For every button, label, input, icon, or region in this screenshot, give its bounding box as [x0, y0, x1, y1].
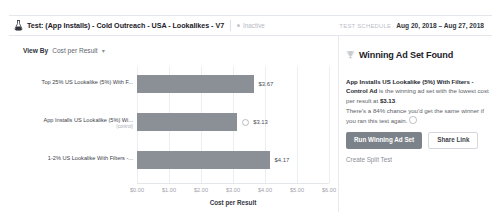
test-schedule-label: TEST SCHEDULE: [339, 23, 391, 29]
test-schedule-dates: Aug 20, 2018 – Aug 27, 2018: [396, 22, 484, 29]
chart-x-tick: $1.00: [162, 187, 176, 193]
chart-x-tick: $0.00: [130, 187, 144, 193]
chart-category-label: Top 25% US Lookalike (5%) With F...: [42, 79, 133, 85]
chart-bar[interactable]: [137, 75, 254, 93]
view-by-label: View By: [23, 47, 48, 54]
chart-x-tick: $6.00: [322, 187, 336, 193]
winner-description: App Installs US Lookalike (5%) With Filt…: [346, 77, 490, 105]
status-badge-label: Inactive: [243, 22, 265, 29]
view-by-control[interactable]: View By Cost per Result ▼: [23, 47, 106, 54]
winner-actions: Run Winning Ad Set Share Link: [346, 132, 478, 149]
chart-category-sublabel: (control): [43, 124, 133, 130]
page-title: Test: (App Installs) - Cold Outreach - U…: [27, 21, 224, 30]
chart-category-label-text: 1-2% US Lookalike With Filters -...: [48, 155, 133, 161]
chevron-down-icon: ▼: [101, 49, 106, 54]
chart-bar-row[interactable]: $3.13: [137, 113, 268, 131]
chart-category-label-text: App Installs US Lookalike (5%) Wi...: [43, 117, 133, 123]
chart-x-axis-title: Cost per Result: [137, 199, 329, 206]
run-winning-ad-set-button[interactable]: Run Winning Ad Set: [346, 132, 422, 148]
chart-card: View By Cost per Result ▼ Top 25% US Loo…: [9, 36, 339, 212]
chart-category-label: 1-2% US Lookalike With Filters -...: [48, 155, 133, 161]
winner-dot-icon: [242, 119, 249, 126]
status-dot-icon: [237, 24, 240, 27]
chart-axis-line: [137, 183, 329, 184]
chart-bar-value-label: $3.67: [258, 81, 273, 87]
flask-icon: [14, 20, 23, 31]
status-badge: Inactive: [237, 22, 265, 29]
chart-bar-row[interactable]: $3.67: [137, 75, 273, 93]
header-divider: [230, 20, 231, 31]
chart-category-label-text: Top 25% US Lookalike (5%) With F...: [42, 79, 133, 85]
split-test-results-page: Test: (App Installs) - Cold Outreach - U…: [0, 0, 501, 221]
chart-bar-row[interactable]: $4.17: [137, 151, 289, 169]
view-by-selected-value: Cost per Result: [52, 47, 97, 54]
winner-cost-value: $3.13: [380, 97, 395, 104]
chart-x-tick: $3.00: [226, 187, 240, 193]
winning-ad-set-panel: Winning Ad Set Found App Installs US Loo…: [340, 36, 492, 212]
test-schedule: TEST SCHEDULE Aug 20, 2018 – Aug 27, 201…: [339, 22, 492, 29]
chart-bar[interactable]: [137, 113, 237, 131]
chart-bar-value-label: $3.13: [253, 119, 268, 125]
chart-plot-area: $3.67$3.13$4.17 $0.00$1.00$2.00$3.00$4.0…: [137, 66, 329, 211]
chart-x-tick: $2.00: [194, 187, 208, 193]
trophy-icon: [346, 50, 355, 60]
chart-category-label: App Installs US Lookalike (5%) Wi...(con…: [43, 117, 133, 130]
chart-gridline: [297, 66, 298, 183]
chart-bar-value-label: $4.17: [274, 157, 289, 163]
test-header-left: Test: (App Installs) - Cold Outreach - U…: [9, 20, 339, 31]
winner-heading: Winning Ad Set Found: [346, 50, 453, 60]
info-icon[interactable]: [409, 116, 417, 124]
chart-gridline: [329, 66, 330, 183]
chart-category-labels: Top 25% US Lookalike (5%) With F...App I…: [17, 66, 133, 211]
winner-probability: There's a 84% chance you'd get the same …: [346, 106, 490, 125]
share-link-button[interactable]: Share Link: [428, 132, 478, 149]
create-split-test-link[interactable]: Create Split Test: [346, 156, 392, 163]
winner-title: Winning Ad Set Found: [359, 50, 453, 60]
chart-x-tick: $5.00: [290, 187, 304, 193]
chart-x-tick: $4.00: [258, 187, 272, 193]
chart-bar[interactable]: [137, 151, 270, 169]
winner-description-end: .: [395, 97, 397, 104]
test-header-bar: Test: (App Installs) - Cold Outreach - U…: [9, 15, 492, 36]
